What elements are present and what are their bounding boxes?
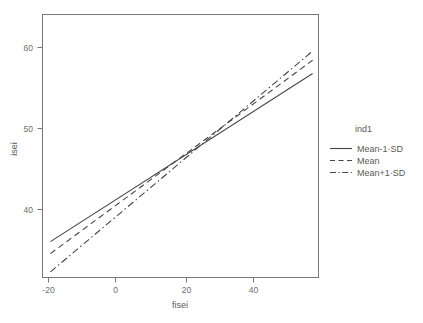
legend-label-mean-plus-1sd[interactable]: Mean+1·SD: [357, 168, 406, 178]
legend-label-mean[interactable]: Mean: [357, 156, 380, 166]
y-axis-ticks: [38, 48, 43, 210]
x-tick-label: 0: [113, 285, 118, 295]
x-tick-label: 40: [249, 285, 259, 295]
y-axis-tick-labels: 40 50 60: [24, 43, 34, 215]
legend-label-mean-minus-1sd[interactable]: Mean-1·SD: [357, 144, 404, 154]
series-line-mean: [50, 60, 312, 253]
x-axis-title: fisei: [172, 300, 188, 310]
x-tick-label: -20: [42, 285, 55, 295]
legend-title: ind1: [355, 124, 372, 134]
x-tick-label: 20: [182, 285, 192, 295]
chart-container: -20 0 20 40 40 50 60 fisei isei ind1: [0, 0, 423, 323]
x-axis-tick-labels: -20 0 20 40: [42, 285, 258, 295]
data-series-group: [50, 51, 312, 272]
legend: ind1 Mean-1·SD Mean Mean+1·SD: [330, 124, 406, 178]
y-tick-label: 40: [24, 205, 34, 215]
x-axis-ticks: [49, 278, 254, 283]
y-axis-title: isei: [9, 142, 19, 156]
y-tick-label: 50: [24, 124, 34, 134]
plot-frame: [43, 15, 319, 278]
series-line-mean-minus-1sd: [50, 74, 312, 242]
y-tick-label: 60: [24, 43, 34, 53]
line-chart: -20 0 20 40 40 50 60 fisei isei ind1: [0, 0, 423, 323]
series-line-mean-plus-1sd: [50, 51, 312, 272]
